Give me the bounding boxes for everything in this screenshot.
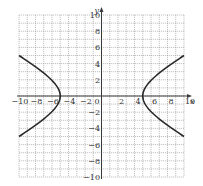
- y-tick-label: −8: [88, 157, 100, 166]
- x-tick-label: −2: [80, 97, 92, 106]
- y-tick-label: 6: [95, 43, 100, 52]
- x-tick-label: −8: [31, 97, 43, 106]
- x-tick-label: 4: [136, 97, 141, 106]
- y-tick-label: 4: [95, 60, 100, 69]
- x-tick-labels: −10−8−6−4−20246810: [12, 97, 196, 106]
- y-tick-label: −6: [88, 141, 100, 150]
- x-tick-label: 8: [169, 97, 174, 106]
- y-axis-arrow-icon: [100, 7, 104, 12]
- hyperbola-plot: x y −10−8−6−4−20246810 108642−2−4−6−8−10: [0, 0, 203, 186]
- y-tick-label: −4: [88, 124, 100, 133]
- y-tick-label: 2: [95, 76, 100, 85]
- y-tick-label: −2: [88, 108, 100, 117]
- y-tick-label: 10: [90, 11, 100, 20]
- y-tick-label: −10: [83, 173, 100, 182]
- x-tick-label: −10: [12, 97, 29, 106]
- x-tick-label: −4: [64, 97, 76, 106]
- x-tick-label: 0: [95, 97, 100, 106]
- x-tick-label: 6: [152, 97, 157, 106]
- x-tick-label: 10: [185, 97, 195, 106]
- y-tick-label: 8: [95, 27, 100, 36]
- x-tick-label: 2: [119, 97, 124, 106]
